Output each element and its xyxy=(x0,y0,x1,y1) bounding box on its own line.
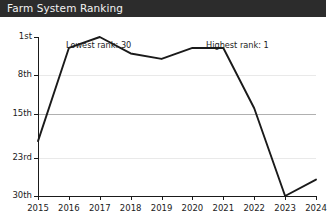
chart-plot-area xyxy=(0,17,326,204)
x-axis-label-2022: 2022 xyxy=(243,203,265,213)
x-axis-label-2024: 2024 xyxy=(305,203,327,213)
x-axis-label-2023: 2023 xyxy=(274,203,296,213)
page-title: Farm System Ranking xyxy=(7,2,123,14)
annotation-lowest-rank: Lowest rank: 30 xyxy=(66,40,131,50)
window-titlebar: Farm System Ranking xyxy=(0,0,326,17)
annotation-highest-rank: Highest rank: 1 xyxy=(206,40,269,50)
x-axis-label-2015: 2015 xyxy=(27,203,49,213)
x-axis-label-2019: 2019 xyxy=(151,203,173,213)
x-axis-label-2016: 2016 xyxy=(58,203,80,213)
x-axis-label-2021: 2021 xyxy=(213,203,235,213)
x-axis-label-2018: 2018 xyxy=(120,203,142,213)
ranking-line-chart: 1st8th15th23rd30th 201520162017201820192… xyxy=(0,17,326,204)
x-axis-label-2017: 2017 xyxy=(89,203,111,213)
data-series-line xyxy=(38,37,316,196)
x-axis-label-2020: 2020 xyxy=(182,203,204,213)
